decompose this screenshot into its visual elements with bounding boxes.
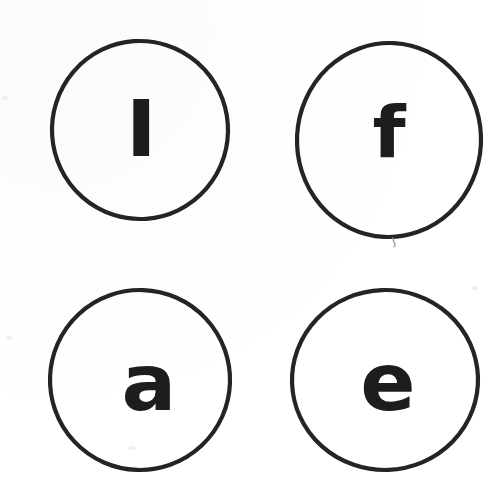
letter-glyph-l: l: [25, 36, 256, 224]
scan-fleck: [2, 96, 9, 100]
letter-circle-e[interactable]: e: [286, 284, 484, 476]
letter-circle-l[interactable]: l: [46, 36, 234, 224]
worksheet-sheet: l f J a e: [0, 0, 501, 478]
scan-fleck: [6, 336, 12, 340]
letter-glyph-a: a: [49, 287, 249, 478]
letter-glyph-e: e: [287, 287, 489, 478]
letter-circle-f[interactable]: f: [291, 38, 487, 242]
letter-circle-a[interactable]: a: [44, 284, 236, 476]
letter-glyph-f: f: [285, 30, 493, 234]
